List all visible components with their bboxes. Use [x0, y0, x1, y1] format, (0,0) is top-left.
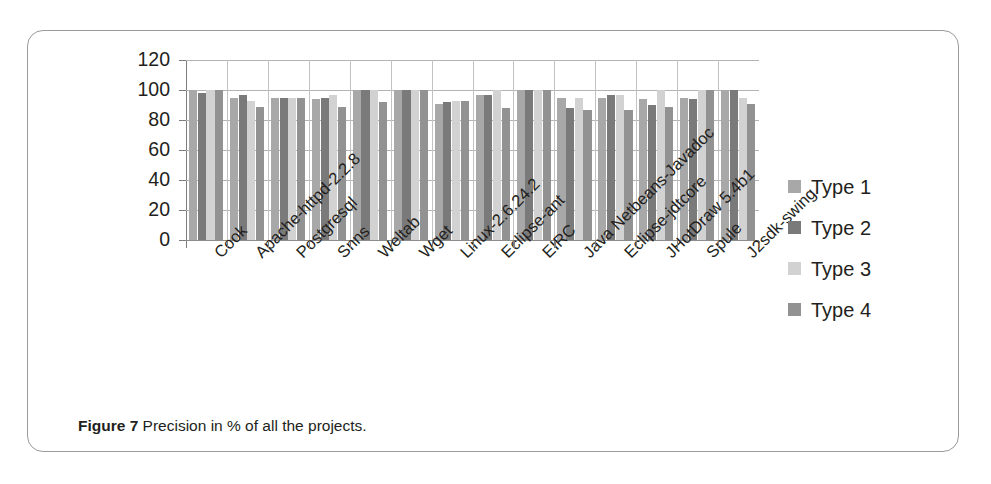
- x-tick-mark: [759, 241, 760, 248]
- bar: [230, 98, 238, 241]
- bar: [379, 102, 387, 240]
- x-tick-mark: [350, 241, 351, 248]
- y-tick-label-80: 80: [108, 110, 170, 130]
- y-tick-mark-80: [179, 120, 186, 121]
- x-tick-mark: [595, 241, 596, 248]
- bar: [394, 90, 402, 240]
- y-tick-mark-100: [179, 90, 186, 91]
- bar: [443, 102, 451, 240]
- bar: [206, 90, 214, 240]
- x-tick-mark: [391, 241, 392, 248]
- x-axis-label: Postgresql: [293, 249, 305, 261]
- x-axis-label: Weltab: [375, 249, 387, 261]
- x-axis-label: Java Netbeans-Javadoc: [580, 249, 592, 261]
- bar-group: [227, 60, 268, 240]
- bar-group: [718, 60, 759, 240]
- bar: [452, 101, 460, 241]
- bar-group: [350, 60, 391, 240]
- bar: [361, 90, 369, 240]
- bar: [583, 110, 591, 241]
- bar-group: [186, 60, 227, 240]
- legend-item-t2[interactable]: Type 2: [788, 207, 938, 248]
- y-tick-label-0: 0: [108, 230, 170, 250]
- bar: [215, 90, 223, 240]
- bar: [256, 107, 264, 241]
- bar: [598, 98, 606, 241]
- x-axis-label: Apache-httpd-2.2.8: [252, 249, 264, 261]
- x-axis-label: J2sdk-swing: [743, 249, 755, 261]
- bar: [312, 99, 320, 240]
- y-tick-mark-0: [179, 240, 186, 241]
- legend-item-t3[interactable]: Type 3: [788, 248, 938, 289]
- bar: [239, 95, 247, 241]
- x-axis-label: Snns: [334, 249, 346, 261]
- bar-group: [554, 60, 595, 240]
- x-tick-mark: [309, 241, 310, 248]
- y-tick-mark-60: [179, 150, 186, 151]
- bar: [189, 90, 197, 240]
- x-axis-label: JHotDraw 5.4b1: [662, 249, 674, 261]
- bar: [420, 90, 428, 240]
- bar: [247, 101, 255, 241]
- bar-group: [432, 60, 473, 240]
- x-axis-label: Eclipse-ant: [498, 249, 510, 261]
- legend-swatch-icon: [788, 303, 801, 316]
- bar: [517, 90, 525, 240]
- y-tick-label-60: 60: [108, 140, 170, 160]
- bar: [721, 90, 729, 240]
- x-axis-label: EIRC: [539, 249, 551, 261]
- x-tick-mark: [473, 241, 474, 248]
- figure-caption: Figure 7 Precision in % of all the proje…: [78, 417, 367, 436]
- x-tick-mark: [268, 241, 269, 248]
- x-tick-mark: [186, 241, 187, 248]
- legend-item-t1[interactable]: Type 1: [788, 166, 938, 207]
- x-tick-mark: [636, 241, 637, 248]
- x-axis-label: Spule: [703, 249, 715, 261]
- y-tick-mark-20: [179, 210, 186, 211]
- y-tick-mark-120: [179, 60, 186, 61]
- legend-label: Type 1: [811, 177, 871, 197]
- bar: [557, 98, 565, 241]
- legend-swatch-icon: [788, 262, 801, 275]
- x-tick-mark: [227, 241, 228, 248]
- x-axis-label: Cook: [211, 249, 223, 261]
- x-tick-mark: [554, 241, 555, 248]
- bar: [639, 99, 647, 240]
- y-axis-tick-labels: 120100806040200: [108, 31, 170, 391]
- x-tick-mark: [718, 241, 719, 248]
- legend-item-t4[interactable]: Type 4: [788, 289, 938, 330]
- bar: [566, 108, 574, 240]
- chart-legend: Type 1Type 2Type 3Type 4: [788, 166, 938, 330]
- legend-swatch-icon: [788, 221, 801, 234]
- x-axis-label: Linux-2.6.24.2: [457, 249, 469, 261]
- bar: [575, 98, 583, 241]
- y-tick-label-20: 20: [108, 200, 170, 220]
- figure-card: 120100806040200 CookApache-httpd-2.2.8Po…: [27, 30, 959, 452]
- legend-swatch-icon: [788, 180, 801, 193]
- y-tick-label-100: 100: [108, 80, 170, 100]
- y-tick-label-40: 40: [108, 170, 170, 190]
- x-tick-mark: [432, 241, 433, 248]
- x-axis-label: Eclipse-jdtcore: [621, 249, 633, 261]
- x-tick-mark: [513, 241, 514, 248]
- y-tick-mark-40: [179, 180, 186, 181]
- x-axis-category-labels: CookApache-httpd-2.2.8PostgresqlSnnsWelt…: [186, 249, 759, 389]
- legend-label: Type 4: [811, 300, 871, 320]
- x-axis-label: Wget: [416, 249, 428, 261]
- bar: [730, 90, 738, 240]
- figure-caption-text: Precision in % of all the projects.: [138, 417, 366, 434]
- x-tick-mark: [677, 241, 678, 248]
- bar: [476, 95, 484, 241]
- figure-caption-label: Figure 7: [78, 417, 138, 434]
- bar: [435, 104, 443, 241]
- bar: [198, 93, 206, 240]
- legend-label: Type 3: [811, 259, 871, 279]
- bar: [461, 101, 469, 241]
- bar: [271, 98, 279, 241]
- y-tick-label-120: 120: [108, 50, 170, 70]
- bar: [370, 90, 378, 240]
- chart-area: 120100806040200 CookApache-httpd-2.2.8Po…: [28, 31, 960, 391]
- legend-label: Type 2: [811, 218, 871, 238]
